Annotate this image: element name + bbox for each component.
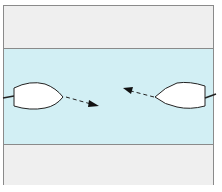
boats-layer	[0, 0, 222, 192]
right-boat-arrow-icon	[123, 87, 154, 97]
right-boat	[155, 82, 216, 108]
left-boat-arrow-icon	[66, 97, 99, 107]
left-boat	[3, 83, 63, 109]
